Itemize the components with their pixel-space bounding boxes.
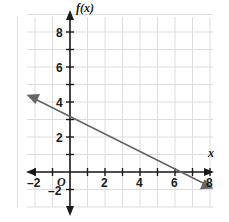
y-axis-bottom-arrowhead [66, 206, 74, 216]
x-tick-label-6: 6 [171, 177, 178, 189]
coordinate-graph: f(x) x O –2 2 4 6 8 8 6 4 2 –2 [0, 0, 229, 222]
x-tick-label-2: 2 [101, 177, 108, 189]
function-line [27, 94, 214, 189]
y-tick-label-8: 8 [56, 27, 63, 39]
x-tick-label-4: 4 [136, 177, 143, 189]
x-axis-label: x [208, 147, 214, 159]
x-tick-label-8: 8 [206, 177, 213, 189]
y-tick-label-2: 2 [56, 132, 63, 144]
x-tick-label-neg2: –2 [27, 177, 40, 189]
x-axis-right-arrowhead [204, 168, 214, 176]
y-tick-label-neg2: –2 [48, 185, 61, 197]
grid-horizontal-lines [27, 15, 213, 208]
y-axis [66, 10, 74, 216]
y-tick-label-6: 6 [56, 62, 63, 74]
grid-vertical-lines [18, 17, 211, 207]
y-axis-label: f(x) [76, 2, 94, 14]
y-tick-label-4: 4 [56, 97, 63, 109]
